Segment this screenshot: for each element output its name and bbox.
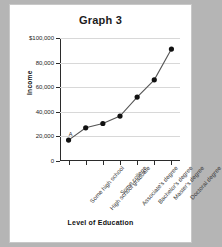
x-axis-tick [171,161,172,165]
y-axis-tick-label: 80,000 [36,60,54,66]
x-axis-tick [137,161,138,165]
y-axis-tick-label: 0 [51,158,54,164]
data-point [135,94,140,99]
series-markers [66,46,174,142]
data-point [100,121,105,126]
data-point [66,137,71,142]
point-annotation-a: A [69,131,73,137]
x-axis-tick [154,161,155,165]
y-axis-tick-label: $100,000 [29,35,54,41]
data-point [83,125,88,130]
y-axis-tick-label: 40,000 [36,109,54,115]
x-axis-tick [69,161,70,165]
y-axis-tick [56,161,60,162]
data-point [117,114,122,119]
x-axis-tick [103,161,104,165]
data-series [60,38,180,161]
y-axis-tick-label: 60,000 [36,84,54,90]
x-axis-tick [86,161,87,165]
plot-area: $100,00080,00060,00040,00020,0000 A [60,38,180,161]
y-axis-tick-label: 20,000 [36,133,54,139]
y-axis-title: Income [26,70,33,95]
data-point [152,77,157,82]
x-axis-title: Level of Education [10,219,191,226]
data-point [169,46,174,51]
chart-title: Graph 3 [10,14,191,26]
chart-figure: Graph 3 Income $100,00080,00060,00040,00… [10,5,191,242]
